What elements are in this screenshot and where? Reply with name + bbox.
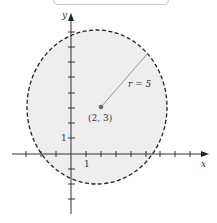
y-axis-label: y	[61, 10, 68, 20]
center-label: (2, 3)	[88, 113, 112, 123]
disk-diagram: (2, 3) r = 5 x y 1 1	[0, 0, 217, 223]
radius-label: r = 5	[128, 79, 152, 89]
y-axis-arrow-icon	[68, 13, 74, 21]
x-tick-label-1: 1	[84, 159, 90, 169]
x-axis-arrow-icon	[201, 151, 209, 157]
disk-region	[27, 30, 167, 184]
x-axis-label: x	[201, 159, 206, 169]
center-point	[99, 105, 104, 110]
y-tick-label-1: 1	[61, 133, 67, 143]
